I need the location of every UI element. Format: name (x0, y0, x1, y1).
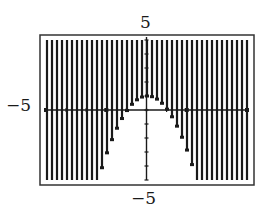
boundary-point (150, 95, 154, 98)
boundary-point (180, 136, 184, 139)
boundary-point (110, 138, 114, 141)
boundary-point (105, 151, 109, 154)
boundary-point (170, 115, 174, 118)
boundary-point (120, 117, 124, 120)
boundary-point (135, 98, 139, 101)
axis-marker (44, 108, 48, 112)
axes (44, 37, 249, 180)
axis-marker (245, 108, 249, 112)
boundary-point (160, 102, 164, 105)
boundary-point (140, 96, 144, 99)
boundary-point (190, 163, 194, 166)
boundary-point (155, 98, 159, 101)
axis-marker (104, 108, 108, 112)
axis-marker (185, 108, 189, 112)
boundary-point (175, 125, 179, 128)
boundary-point (100, 166, 104, 169)
plot-area (0, 0, 262, 216)
boundary-point (130, 103, 134, 106)
boundary-point (115, 127, 119, 130)
boundary-point (185, 149, 189, 152)
